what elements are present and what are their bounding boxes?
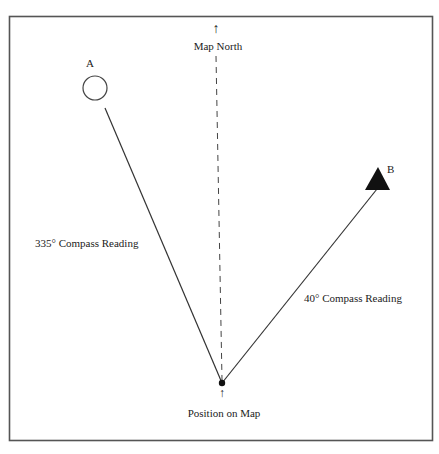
- bearing-a-label: 335° Compass Reading: [35, 238, 138, 249]
- position-on-map-label: Position on Map: [188, 408, 261, 419]
- landmark-b-label: B: [387, 164, 394, 175]
- diagram-frame: [10, 17, 433, 441]
- bearing-b-label: 40° Compass Reading: [304, 293, 402, 304]
- position-arrow-icon: ↑: [219, 387, 225, 399]
- bearing-line-b: [222, 189, 377, 383]
- map-north-label: Map North: [194, 41, 243, 52]
- landmark-a-label: A: [86, 58, 94, 69]
- landmark-a-circle-icon: [83, 76, 107, 100]
- map-north-dashed-line: [216, 56, 222, 380]
- north-arrow-icon: ↑: [213, 22, 220, 36]
